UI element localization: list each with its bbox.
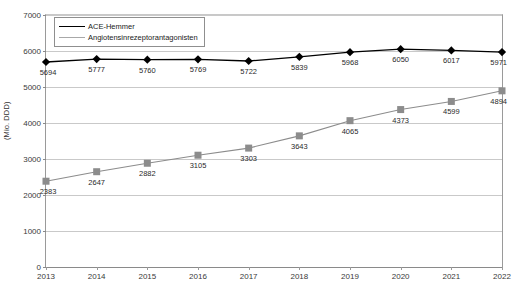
- data-point-marker: [143, 56, 151, 64]
- data-point-label: 4894: [490, 97, 507, 106]
- data-point-label: 5968: [342, 58, 359, 67]
- data-point-marker: [42, 58, 50, 66]
- data-point-label: 2383: [40, 187, 57, 196]
- x-axis-tick-label: 2019: [341, 272, 359, 281]
- data-point-marker: [93, 55, 101, 63]
- legend-item-angiotensinrezeptorantagonisten[interactable]: Angiotensinrezeptorantagonisten: [59, 32, 198, 43]
- x-tick-mark: [299, 267, 300, 270]
- x-tick-mark: [350, 267, 351, 270]
- y-axis-tick-label: 7000: [23, 11, 41, 20]
- x-axis-tick-label: 2020: [392, 272, 410, 281]
- data-point-label: 5769: [190, 65, 207, 74]
- data-point-marker: [93, 168, 100, 175]
- y-axis-tick-label: 2000: [23, 191, 41, 200]
- x-axis-tick-label: 2018: [290, 272, 308, 281]
- data-point-label: 6050: [392, 55, 409, 64]
- y-axis-title: (Mio. DDD): [2, 60, 11, 140]
- x-axis-tick-label: 2022: [493, 272, 511, 281]
- data-point-label: 4599: [443, 107, 460, 116]
- data-point-marker: [245, 145, 252, 152]
- data-point-marker: [195, 152, 202, 159]
- data-point-marker: [296, 132, 303, 139]
- x-tick-mark: [401, 267, 402, 270]
- series-line: [46, 49, 502, 62]
- data-point-label: 5694: [40, 68, 57, 77]
- data-point-marker: [194, 55, 202, 63]
- data-point-label: 5722: [240, 67, 257, 76]
- legend-marker-square-icon: [59, 32, 85, 43]
- data-point-label: 2647: [88, 178, 105, 187]
- data-point-label: 4065: [342, 127, 359, 136]
- data-point-marker: [245, 57, 253, 65]
- data-point-label: 5839: [291, 63, 308, 72]
- y-axis-tick-label: 4000: [23, 119, 41, 128]
- data-point-marker: [448, 98, 455, 105]
- data-point-label: 6017: [443, 56, 460, 65]
- data-point-label: 3643: [291, 142, 308, 151]
- data-point-label: 2882: [139, 169, 156, 178]
- data-point-marker: [397, 106, 404, 113]
- x-tick-mark: [451, 267, 452, 270]
- data-point-marker: [43, 178, 50, 185]
- data-point-marker: [447, 46, 455, 54]
- x-axis-tick-label: 2015: [138, 272, 156, 281]
- x-tick-mark: [97, 267, 98, 270]
- x-tick-mark: [147, 267, 148, 270]
- x-tick-mark: [502, 267, 503, 270]
- x-axis-tick-label: 2013: [37, 272, 55, 281]
- data-point-marker: [346, 48, 354, 56]
- y-axis-tick-label: 5000: [23, 83, 41, 92]
- data-point-label: 5777: [88, 65, 105, 74]
- y-axis-tick-label: 1000: [23, 227, 41, 236]
- data-point-label: 4373: [392, 116, 409, 125]
- y-axis-tick-label: 3000: [23, 155, 41, 164]
- x-tick-mark: [249, 267, 250, 270]
- y-axis-tick-label: 6000: [23, 47, 41, 56]
- data-point-label: 3105: [190, 161, 207, 170]
- plot-area: 01000200030004000500060007000 2013201420…: [45, 14, 503, 268]
- legend-label: Angiotensinrezeptorantagonisten: [88, 33, 198, 42]
- x-axis-tick-label: 2017: [240, 272, 258, 281]
- x-tick-mark: [198, 267, 199, 270]
- data-point-marker: [397, 45, 405, 53]
- x-axis-tick-label: 2016: [189, 272, 207, 281]
- legend: ACE-Hemmer Angiotensinrezeptorantagonist…: [54, 17, 205, 47]
- data-point-label: 5971: [490, 58, 507, 67]
- legend-item-ace-hemmer[interactable]: ACE-Hemmer: [59, 21, 198, 32]
- series-line: [46, 91, 502, 181]
- data-point-marker: [498, 48, 506, 56]
- x-axis-tick-label: 2021: [442, 272, 460, 281]
- x-axis-tick-label: 2014: [88, 272, 106, 281]
- x-tick-mark: [46, 267, 47, 270]
- data-point-label: 3303: [240, 154, 257, 163]
- data-point-marker: [499, 87, 506, 94]
- data-point-marker: [347, 117, 354, 124]
- series-lines: [46, 15, 502, 267]
- chart-container: (Mio. DDD) 01000200030004000500060007000…: [0, 0, 521, 300]
- data-point-marker: [295, 53, 303, 61]
- legend-marker-diamond-icon: [59, 21, 85, 32]
- data-point-label: 5760: [139, 66, 156, 75]
- data-point-marker: [144, 160, 151, 167]
- y-axis-tick-label: 0: [37, 263, 41, 272]
- legend-label: ACE-Hemmer: [88, 22, 135, 31]
